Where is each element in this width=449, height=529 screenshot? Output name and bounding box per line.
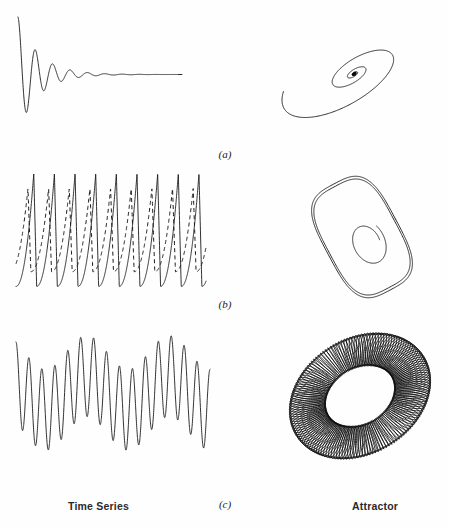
panel-a-time-series: [10, 12, 210, 137]
relaxation-oscillation-plot: [10, 170, 220, 290]
limit-cycle-plot: [288, 182, 444, 294]
column-label-attractor: Attractor: [352, 500, 398, 512]
panel-a-attractor: [278, 10, 446, 138]
panel-b-time-series: [10, 170, 220, 290]
attractors-figure: (a) (b) (c) Time Series Attractor: [0, 0, 449, 529]
quasiperiodic-plot: [10, 332, 222, 454]
column-label-time-series: Time Series: [68, 500, 129, 512]
torus-plot: [294, 330, 426, 462]
panel-c-attractor: [294, 330, 426, 462]
panel-label-b: (b): [205, 298, 245, 310]
spiral-fixed-point-plot: [278, 10, 446, 138]
panel-label-c: (c): [205, 498, 245, 510]
panel-c-time-series: [10, 332, 222, 454]
damped-oscillation-plot: [10, 12, 210, 137]
panel-b-attractor: [288, 182, 444, 294]
panel-label-a: (a): [205, 148, 245, 160]
